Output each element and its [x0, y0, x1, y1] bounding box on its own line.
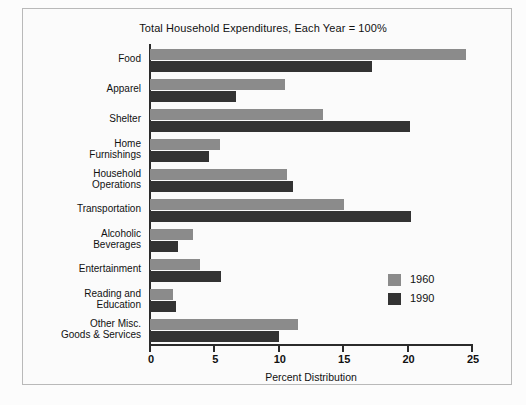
category-label: Food: [0, 53, 141, 65]
category-label-line: Household: [0, 168, 141, 180]
x-axis-tick-label: 20: [389, 353, 429, 365]
x-axis-tick: [471, 346, 473, 352]
legend-item: 1960: [388, 272, 468, 291]
bar-1960: [150, 319, 298, 330]
bar-1960: [150, 79, 285, 90]
category-label: Transportation: [0, 203, 141, 215]
bar-1960: [150, 169, 287, 180]
x-axis-tick: [213, 346, 215, 352]
bar-1990: [150, 151, 209, 162]
x-axis-tick-label: 0: [131, 353, 171, 365]
bar-1960: [150, 259, 200, 270]
bar-1990: [150, 91, 236, 102]
category-label: AlcoholicBeverages: [0, 228, 141, 251]
legend-item: 1990: [388, 291, 468, 310]
legend-swatch: [388, 274, 401, 286]
category-label-line: Entertainment: [0, 263, 141, 275]
bar-1960: [150, 199, 344, 210]
bar-1990: [150, 181, 293, 192]
x-axis-tick-label: 5: [195, 353, 235, 365]
category-label: Other Misc.Goods & Services: [0, 318, 141, 341]
category-label-line: Furnishings: [0, 149, 141, 161]
legend-label: 1960: [410, 273, 434, 285]
x-axis-tick: [407, 346, 409, 352]
category-label-line: Reading and: [0, 288, 141, 300]
x-axis-tick: [278, 346, 280, 352]
bar-1990: [150, 271, 221, 282]
legend-swatch: [388, 293, 401, 305]
category-label: Apparel: [0, 83, 141, 95]
bar-1990: [150, 241, 178, 252]
bar-1960: [150, 289, 173, 300]
bar-1990: [150, 121, 410, 132]
category-label: HouseholdOperations: [0, 168, 141, 191]
category-label-line: Transportation: [0, 203, 141, 215]
bar-1960: [150, 49, 466, 60]
category-label-line: Beverages: [0, 239, 141, 251]
category-label-line: Goods & Services: [0, 329, 141, 341]
category-label-line: Food: [0, 53, 141, 65]
chart-figure: Total Household Expenditures, Each Year …: [0, 0, 526, 405]
x-axis-tick-label: 10: [260, 353, 300, 365]
x-axis-tick-label: 25: [453, 353, 493, 365]
category-label: HomeFurnishings: [0, 138, 141, 161]
category-label-line: Operations: [0, 179, 141, 191]
x-axis-tick: [149, 346, 151, 352]
x-axis-tick: [342, 346, 344, 352]
bar-1990: [150, 301, 176, 312]
legend-label: 1990: [410, 292, 434, 304]
chart-legend: 19601990: [388, 272, 468, 310]
category-label-line: Shelter: [0, 113, 141, 125]
bar-1990: [150, 331, 279, 342]
category-axis-labels: FoodApparelShelterHomeFurnishingsHouseho…: [0, 45, 145, 345]
category-label-line: Alcoholic: [0, 228, 141, 240]
bar-1960: [150, 229, 193, 240]
bar-1960: [150, 139, 220, 150]
x-axis-tick-label: 15: [324, 353, 364, 365]
bar-1990: [150, 61, 372, 72]
bar-1990: [150, 211, 411, 222]
category-label: Shelter: [0, 113, 141, 125]
x-axis-title: Percent Distribution: [150, 371, 472, 383]
category-label-line: Other Misc.: [0, 318, 141, 330]
bar-1960: [150, 109, 323, 120]
chart-title: Total Household Expenditures, Each Year …: [0, 22, 526, 34]
category-label: Entertainment: [0, 263, 141, 275]
category-label-line: Apparel: [0, 83, 141, 95]
category-label-line: Education: [0, 299, 141, 311]
category-label-line: Home: [0, 138, 141, 150]
category-label: Reading andEducation: [0, 288, 141, 311]
